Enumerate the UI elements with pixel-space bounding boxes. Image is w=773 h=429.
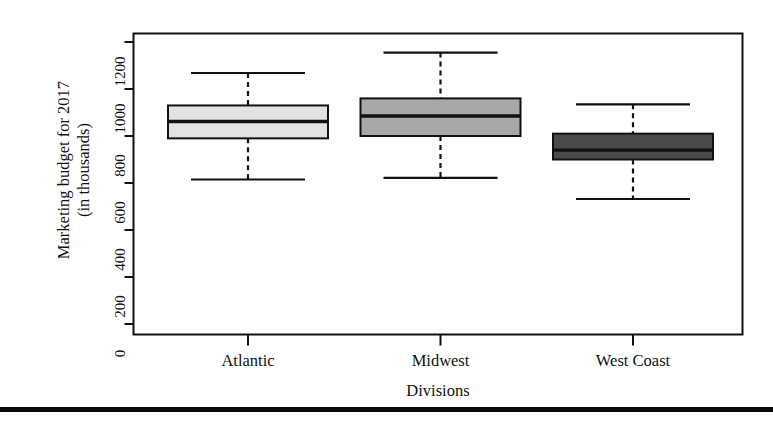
x-tick-label: Atlantic <box>158 351 338 371</box>
x-axis-ticks <box>248 335 633 346</box>
plot-frame <box>134 34 743 335</box>
page-bottom-rule <box>0 407 773 412</box>
x-axis-title: Divisions <box>133 381 743 401</box>
iqr-box <box>553 134 713 160</box>
x-tick-label: Midwest <box>351 351 531 371</box>
x-tick-label: West Coast <box>543 351 723 371</box>
y-axis-ticks <box>125 42 134 324</box>
boxplot-figure: Marketing budget for 2017 (in thousands)… <box>0 0 773 429</box>
